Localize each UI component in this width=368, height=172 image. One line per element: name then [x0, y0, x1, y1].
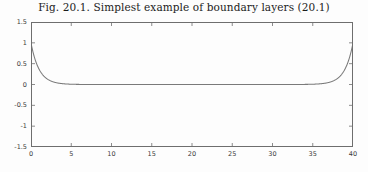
- y-tick-label: 0: [0, 81, 27, 89]
- x-tick-label: 30: [268, 150, 276, 158]
- plot-area: [31, 22, 353, 147]
- x-tick-label: 10: [107, 150, 115, 158]
- figure-container: Fig. 20.1. Simplest example of boundary …: [0, 0, 368, 172]
- y-tick-label: 1.5: [0, 18, 27, 26]
- x-tick-label: 35: [309, 150, 317, 158]
- y-tick-label: 1: [0, 39, 27, 47]
- figure-title: Fig. 20.1. Simplest example of boundary …: [0, 1, 368, 13]
- y-tick-label: 0.5: [0, 60, 27, 68]
- y-tick-label: -0.5: [0, 101, 27, 109]
- x-tick-label: 0: [29, 150, 33, 158]
- x-tick-label: 5: [69, 150, 73, 158]
- x-tick-label: 20: [188, 150, 196, 158]
- plot-svg: [31, 22, 353, 147]
- x-tick-label: 40: [349, 150, 357, 158]
- y-tick-label: -1.5: [0, 143, 27, 151]
- x-tick-label: 15: [148, 150, 156, 158]
- y-tick-label: -1: [0, 122, 27, 130]
- x-tick-label: 25: [228, 150, 236, 158]
